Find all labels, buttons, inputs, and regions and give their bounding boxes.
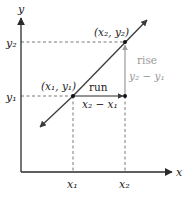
y-axis-label: y	[17, 3, 25, 16]
rise-label: rise	[137, 54, 157, 66]
slope-diagram: y x y₂ y₁ x₁ x₂ (x₁, y₁) (x₂, y₂) run x₂…	[0, 0, 186, 200]
x2-tick-label: x₂	[119, 178, 130, 191]
rise-expression: y₂ − y₁	[128, 70, 165, 82]
point-2	[123, 40, 127, 44]
x-axis-label: x	[176, 166, 183, 179]
corner-point	[123, 94, 127, 98]
run-label: run	[89, 81, 108, 93]
point-1-label: (x₁, y₁)	[41, 80, 76, 92]
y2-tick-label: y₂	[5, 37, 17, 50]
point-1	[71, 94, 75, 98]
sloped-line-lower	[40, 96, 73, 127]
x1-tick-label: x₁	[67, 178, 78, 191]
point-2-label: (x₂, y₂)	[94, 26, 129, 38]
run-expression: x₂ − x₁	[82, 98, 118, 110]
y1-tick-label: y₁	[5, 91, 17, 104]
